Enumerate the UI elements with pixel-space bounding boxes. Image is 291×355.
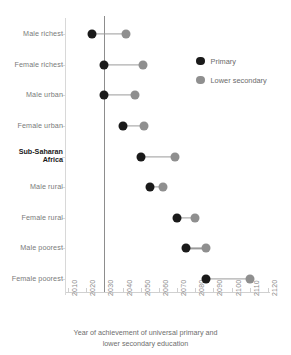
- reference-line: [104, 16, 105, 292]
- data-point-primary[interactable]: [202, 275, 211, 284]
- x-axis-tick: [123, 288, 124, 292]
- x-axis-tick-label: 2120: [271, 279, 278, 295]
- data-point-lower-secondary[interactable]: [122, 30, 131, 39]
- x-axis-tick-label: 2110: [253, 280, 260, 296]
- data-point-lower-secondary[interactable]: [158, 183, 167, 192]
- data-point-lower-secondary[interactable]: [191, 213, 200, 222]
- plot-area: 2010202020302040205020602070208020902100…: [0, 0, 291, 355]
- x-axis-tick: [68, 288, 69, 292]
- x-axis-tick-label: 2040: [126, 279, 133, 295]
- x-axis-title-line-1: Year of achievement of universal primary…: [0, 328, 291, 339]
- category-label: Female richest: [0, 60, 63, 69]
- legend-item-lower-secondary: Lower secondary: [196, 75, 267, 85]
- x-axis-title: Year of achievement of universal primary…: [0, 328, 291, 349]
- category-label: Male richest: [0, 30, 63, 39]
- data-point-lower-secondary[interactable]: [138, 60, 147, 69]
- data-point-primary[interactable]: [182, 244, 191, 253]
- dumbbell-connector: [206, 278, 250, 279]
- category-label: Male poorest: [0, 244, 63, 253]
- x-axis-title-line-2: lower secondary education: [0, 339, 291, 350]
- data-point-lower-secondary[interactable]: [131, 91, 140, 100]
- data-point-primary[interactable]: [118, 121, 127, 130]
- primary-dot-icon: [196, 57, 205, 66]
- dumbbell-chart: 2010202020302040205020602070208020902100…: [0, 0, 291, 355]
- x-axis-tick-label: 2100: [235, 279, 242, 295]
- chart-legend: Primary Lower secondary: [196, 56, 267, 94]
- category-label-line: Africa: [0, 157, 63, 166]
- category-label-row: Male rural: [0, 183, 63, 192]
- data-point-primary[interactable]: [100, 60, 109, 69]
- x-axis-tick: [232, 288, 233, 292]
- data-point-primary[interactable]: [173, 213, 182, 222]
- x-axis-tick-label: 2020: [89, 279, 96, 295]
- data-point-primary[interactable]: [136, 152, 145, 161]
- x-axis-tick-label: 2090: [216, 279, 223, 295]
- category-label: Male urban: [0, 91, 63, 100]
- category-label: Female poorest: [0, 275, 63, 284]
- category-label-row: Male richest: [0, 30, 63, 39]
- x-axis-tick: [141, 288, 142, 292]
- legend-item-primary: Primary: [196, 56, 267, 66]
- data-point-lower-secondary[interactable]: [171, 152, 180, 161]
- category-label-row: Male urban: [0, 91, 63, 100]
- data-point-primary[interactable]: [145, 183, 154, 192]
- legend-label-primary: Primary: [211, 57, 236, 66]
- x-axis-tick: [159, 288, 160, 292]
- x-axis-tick: [86, 288, 87, 292]
- x-axis-tick-label: 2050: [144, 279, 151, 295]
- x-axis-tick: [250, 288, 251, 292]
- category-label-row: Female rural: [0, 213, 63, 222]
- data-point-primary[interactable]: [100, 91, 109, 100]
- lower-secondary-dot-icon: [196, 76, 205, 85]
- x-axis-tick: [177, 288, 178, 292]
- category-label: Female rural: [0, 213, 63, 222]
- x-axis-tick: [195, 288, 196, 292]
- category-label-row: Female poorest: [0, 275, 63, 284]
- x-axis-tick: [268, 288, 269, 292]
- data-point-primary[interactable]: [87, 30, 96, 39]
- x-axis-tick-label: 2010: [71, 279, 78, 295]
- category-label-row: Female richest: [0, 60, 63, 69]
- data-point-lower-secondary[interactable]: [140, 121, 149, 130]
- legend-label-lower-secondary: Lower secondary: [211, 76, 267, 85]
- category-label: Sub-SaharanAfrica: [0, 148, 63, 165]
- category-label-row: Sub-SaharanAfrica: [0, 148, 63, 165]
- category-label: Female urban: [0, 122, 63, 131]
- x-axis-tick-label: 2030: [107, 279, 114, 295]
- category-label-row: Female urban: [0, 122, 63, 131]
- x-axis-tick-label: 2070: [180, 279, 187, 295]
- dumbbell-connector: [104, 64, 142, 65]
- data-point-lower-secondary[interactable]: [245, 275, 254, 284]
- data-point-lower-secondary[interactable]: [202, 244, 211, 253]
- y-axis-line: [65, 18, 66, 295]
- x-axis-tick: [213, 288, 214, 292]
- category-label-row: Male poorest: [0, 244, 63, 253]
- category-label: Male rural: [0, 183, 63, 192]
- x-axis-tick-label: 2060: [162, 279, 169, 295]
